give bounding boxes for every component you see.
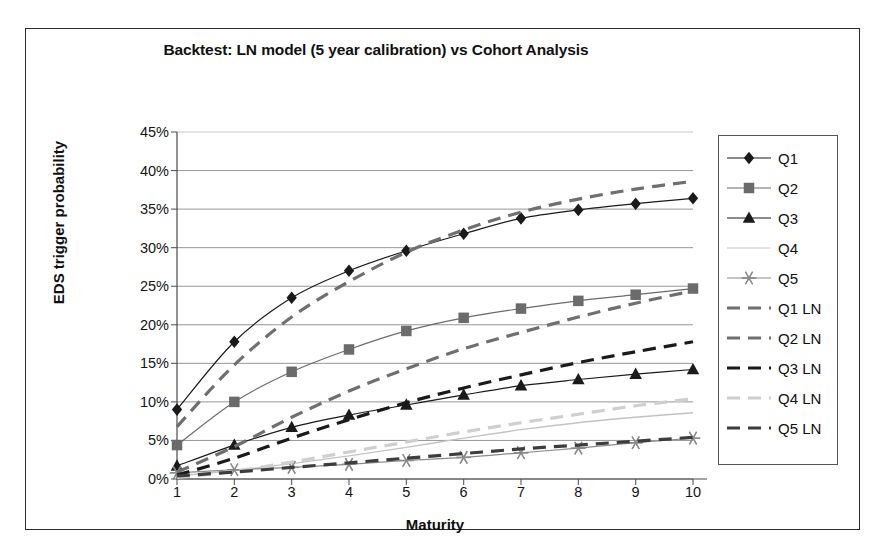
y-tick-label: 15% xyxy=(109,355,169,371)
y-axis-ticks: 0%5%10%15%20%25%30%35%40%45% xyxy=(109,132,169,479)
legend-label: Q1 LN xyxy=(772,300,821,317)
data-point-marker xyxy=(401,326,412,337)
y-axis-title: EDS trigger probability xyxy=(50,93,67,353)
legend-item[interactable]: Q4 LN xyxy=(726,383,831,413)
data-point-marker xyxy=(229,397,240,408)
chart-screenshot: Backtest: LN model (5 year calibration) … xyxy=(0,0,885,555)
x-axis-ticks: 12345678910 xyxy=(177,484,693,508)
data-point-marker xyxy=(459,227,469,240)
legend-item[interactable]: Q3 LN xyxy=(726,353,831,383)
legend-key-solid-icon xyxy=(726,239,772,257)
data-point-marker xyxy=(344,265,354,278)
legend-item[interactable]: Q5 xyxy=(726,263,831,293)
data-point-marker xyxy=(744,183,755,194)
chart-legend: Q1Q2Q3Q4Q5Q1 LNQ2 LNQ3 LNQ4 LNQ5 LN xyxy=(718,135,838,465)
x-tick-label: 5 xyxy=(386,484,426,500)
data-point-marker xyxy=(744,152,754,165)
data-point-marker xyxy=(573,204,583,217)
data-point-marker xyxy=(344,344,355,355)
plot-svg xyxy=(177,132,693,479)
legend-label: Q5 LN xyxy=(772,420,821,437)
legend-key-solid-icon xyxy=(726,149,772,167)
legend-key-dashed-icon xyxy=(726,299,772,317)
y-tick-label: 10% xyxy=(109,394,169,410)
data-point-marker xyxy=(287,291,297,304)
legend-key-dashed-icon xyxy=(726,419,772,437)
data-point-marker xyxy=(172,440,183,451)
y-tick-label: 40% xyxy=(109,163,169,179)
chart-title: Backtest: LN model (5 year calibration) … xyxy=(26,41,726,59)
x-tick-label: 7 xyxy=(501,484,541,500)
series-line xyxy=(177,289,693,446)
y-tick-label: 45% xyxy=(109,124,169,140)
legend-key-solid-icon xyxy=(726,269,772,287)
y-tick-label: 30% xyxy=(109,240,169,256)
data-point-marker xyxy=(227,464,241,476)
legend-key-solid-icon xyxy=(726,209,772,227)
plot-area xyxy=(177,132,693,479)
y-tick-label: 35% xyxy=(109,201,169,217)
data-point-marker xyxy=(516,303,527,314)
legend-label: Q4 LN xyxy=(772,390,821,407)
y-tick-label: 25% xyxy=(109,278,169,294)
legend-item[interactable]: Q1 LN xyxy=(726,293,831,323)
legend-label: Q5 xyxy=(772,270,798,287)
y-tick-label: 5% xyxy=(109,432,169,448)
data-point-marker xyxy=(630,289,641,300)
x-tick-label: 10 xyxy=(673,484,713,500)
legend-item[interactable]: Q3 xyxy=(726,203,831,233)
legend-label: Q4 xyxy=(772,240,798,257)
x-tick-label: 3 xyxy=(272,484,312,500)
legend-key-dashed-icon xyxy=(726,359,772,377)
legend-item[interactable]: Q5 LN xyxy=(726,413,831,443)
y-tick-label: 20% xyxy=(109,317,169,333)
x-tick-label: 4 xyxy=(329,484,369,500)
data-point-marker xyxy=(687,363,700,374)
legend-label: Q2 xyxy=(772,180,798,197)
legend-key-dashed-icon xyxy=(726,329,772,347)
legend-item[interactable]: Q4 xyxy=(726,233,831,263)
data-point-marker xyxy=(628,437,642,449)
legend-label: Q3 LN xyxy=(772,360,821,377)
series-line xyxy=(177,198,693,409)
data-point-marker xyxy=(743,211,756,222)
data-point-marker xyxy=(458,313,469,324)
data-point-marker xyxy=(688,192,698,205)
data-point-marker xyxy=(286,367,297,378)
x-tick-label: 2 xyxy=(214,484,254,500)
x-tick-label: 6 xyxy=(444,484,484,500)
x-tick-label: 9 xyxy=(616,484,656,500)
data-point-marker xyxy=(573,296,584,307)
chart-frame: Backtest: LN model (5 year calibration) … xyxy=(25,28,860,530)
legend-key-dashed-icon xyxy=(726,389,772,407)
legend-item[interactable]: Q2 xyxy=(726,173,831,203)
legend-label: Q1 xyxy=(772,150,798,167)
data-point-marker xyxy=(399,454,413,466)
data-point-marker xyxy=(631,197,641,210)
legend-label: Q2 LN xyxy=(772,330,821,347)
data-point-marker xyxy=(742,272,756,284)
series-markers xyxy=(172,192,698,416)
x-axis-title: Maturity xyxy=(177,516,693,533)
legend-item[interactable]: Q1 xyxy=(726,143,831,173)
series-line xyxy=(177,370,693,466)
x-tick-label: 8 xyxy=(558,484,598,500)
legend-item[interactable]: Q2 LN xyxy=(726,323,831,353)
x-tick-label: 1 xyxy=(157,484,197,500)
legend-label: Q3 xyxy=(772,210,798,227)
legend-key-solid-icon xyxy=(726,179,772,197)
